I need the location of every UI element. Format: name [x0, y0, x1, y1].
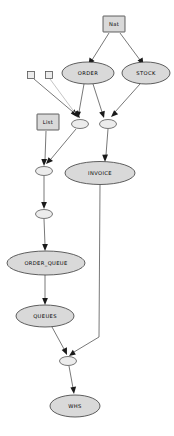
edge-joinc-joind — [41, 176, 47, 209]
node-stock[interactable]: STOCK — [122, 62, 170, 84]
graph-diagram-canvas: Nat ORDER STOCK List — [0, 0, 174, 436]
edge-joinb-invoice — [102, 129, 108, 162]
arrowhead-icon — [41, 202, 47, 209]
graph-diagram-svg: Nat ORDER STOCK List — [0, 0, 174, 436]
node-list[interactable]: List — [37, 114, 59, 130]
node-square-1[interactable] — [28, 72, 35, 79]
edge-line — [52, 327, 64, 349]
node-shape-ellipse[interactable] — [50, 395, 100, 417]
edge-joine-whs — [69, 366, 76, 394]
node-shape-rect[interactable] — [37, 114, 59, 130]
edge-square1-joina — [34, 79, 77, 117]
node-layer: Nat ORDER STOCK List — [7, 16, 170, 417]
node-shape-ellipse[interactable] — [62, 62, 114, 84]
edge-line — [45, 131, 46, 160]
edge-line — [92, 33, 109, 60]
node-shape-ellipse[interactable] — [72, 120, 89, 129]
arrowhead-icon — [111, 110, 118, 117]
arrowhead-icon — [41, 159, 47, 166]
node-shape-ellipse[interactable] — [16, 305, 74, 327]
edge-orderqueue-queues — [42, 275, 48, 305]
edge-line — [69, 366, 73, 388]
edge-list-joinc — [41, 131, 47, 166]
node-order-queue[interactable]: ORDER_QUEUE — [7, 251, 85, 275]
edge-line — [106, 129, 108, 155]
edge-line — [93, 84, 102, 112]
node-invoice[interactable]: INVOICE — [65, 162, 135, 185]
node-order[interactable]: ORDER — [62, 62, 114, 84]
edge-line — [115, 84, 140, 112]
node-join-c[interactable] — [36, 167, 53, 176]
node-shape-ellipse[interactable] — [36, 210, 53, 219]
edge-stock-joinb — [111, 84, 140, 117]
node-shape-rect[interactable] — [103, 16, 125, 32]
node-join-b[interactable] — [100, 120, 117, 129]
edge-line — [51, 129, 76, 159]
arrowhead-icon — [42, 244, 48, 251]
node-queues[interactable]: QUEUES — [16, 305, 74, 327]
node-whs[interactable]: WHS — [50, 395, 100, 417]
node-shape-ellipse[interactable] — [65, 162, 135, 185]
node-shape-ellipse[interactable] — [7, 251, 85, 275]
node-join-e[interactable] — [60, 357, 77, 366]
node-square-2[interactable] — [46, 72, 53, 79]
node-shape-ellipse[interactable] — [60, 357, 77, 366]
node-shape-ellipse[interactable] — [100, 120, 117, 129]
edge-line — [79, 84, 84, 112]
node-join-d[interactable] — [36, 210, 53, 219]
edge-joina-joinc — [46, 129, 76, 164]
node-shape-rect[interactable] — [28, 72, 35, 79]
arrowhead-icon — [69, 350, 76, 356]
edge-joind-orderqueue — [42, 219, 48, 251]
edge-line — [44, 219, 45, 245]
node-join-a[interactable] — [72, 120, 89, 129]
arrowhead-icon — [99, 111, 105, 118]
edge-nat-order — [89, 33, 110, 65]
edge-order-joinb — [93, 84, 105, 118]
edge-square2-joina — [50, 79, 80, 118]
arrowhead-icon — [102, 155, 108, 162]
node-nat[interactable]: Nat — [103, 16, 125, 32]
arrowhead-icon — [42, 298, 48, 305]
arrowhead-icon — [70, 387, 76, 394]
edge-queues-joine — [52, 327, 67, 355]
arrowhead-icon — [62, 347, 67, 355]
edge-line — [120, 33, 140, 60]
edge-nat-stock — [120, 33, 144, 65]
node-shape-ellipse[interactable] — [122, 62, 170, 84]
node-shape-ellipse[interactable] — [36, 167, 53, 176]
node-shape-rect[interactable] — [46, 72, 53, 79]
